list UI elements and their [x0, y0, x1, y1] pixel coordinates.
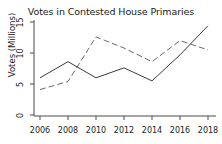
plot-area — [0, 0, 222, 144]
chart-container: Votes in Contested House Primaries Votes… — [0, 0, 222, 144]
data-line-solid — [40, 26, 208, 81]
y-tick-marks — [30, 22, 34, 115]
x-tick-marks — [40, 116, 208, 120]
